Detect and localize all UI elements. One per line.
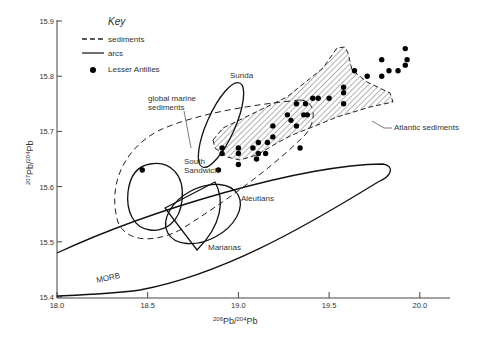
- data-point: [254, 156, 259, 161]
- pb-isotope-chart: 15.415.515.615.715.815.9 18.018.519.019.…: [0, 0, 484, 342]
- y-axis-title: 207Pb/204Pb: [25, 140, 35, 185]
- svg-text:19.5: 19.5: [322, 301, 337, 310]
- data-point: [341, 101, 346, 106]
- circle-marker-icon: [90, 67, 96, 73]
- data-point: [219, 145, 224, 150]
- y-axis-ticks: 15.415.515.615.715.815.9: [39, 17, 62, 302]
- data-point: [250, 145, 255, 150]
- label-marianas: Marianas: [208, 243, 241, 252]
- data-point: [310, 96, 315, 101]
- data-point: [294, 123, 299, 128]
- data-point: [379, 57, 384, 62]
- svg-text:15.7: 15.7: [39, 127, 54, 136]
- data-point: [263, 151, 268, 156]
- data-point: [305, 112, 310, 117]
- data-point: [270, 134, 275, 139]
- label-gms-1: global marine: [148, 94, 197, 103]
- svg-text:15.6: 15.6: [39, 183, 54, 192]
- data-point: [236, 151, 241, 156]
- data-point: [326, 96, 331, 101]
- data-point: [140, 167, 145, 172]
- data-point: [303, 101, 308, 106]
- data-point: [285, 112, 290, 117]
- data-point: [379, 74, 384, 79]
- svg-text:19.0: 19.0: [231, 301, 246, 310]
- svg-text:15.5: 15.5: [39, 238, 54, 247]
- data-point: [256, 151, 261, 156]
- svg-text:20.0: 20.0: [412, 301, 427, 310]
- label-sunda: Sunda: [230, 71, 254, 80]
- data-point: [404, 57, 409, 62]
- data-point: [297, 145, 302, 150]
- label-morb: MORB: [96, 271, 121, 285]
- data-point: [288, 118, 293, 123]
- legend: Key sediments arcs Lesser Antilles: [82, 16, 160, 74]
- data-point: [219, 151, 224, 156]
- data-point: [352, 68, 357, 73]
- data-point: [236, 162, 241, 167]
- axes: [57, 20, 450, 298]
- data-point: [294, 101, 299, 106]
- svg-text:15.9: 15.9: [39, 17, 54, 26]
- legend-sediments: sediments: [108, 35, 144, 44]
- label-atlantic: Atlantic sediments: [394, 123, 459, 132]
- data-point: [386, 68, 391, 73]
- label-aleutians: Aleutians: [241, 194, 274, 203]
- svg-text:15.8: 15.8: [39, 72, 54, 81]
- data-point: [341, 85, 346, 90]
- x-axis-title: 206Pb/204Pb: [213, 316, 258, 326]
- data-point: [341, 90, 346, 95]
- label-gms-2: sediments: [148, 103, 184, 112]
- legend-title: Key: [108, 16, 126, 27]
- data-point: [270, 123, 275, 128]
- data-point: [403, 46, 408, 51]
- data-point: [236, 145, 241, 150]
- label-ss-1: South: [184, 157, 205, 166]
- svg-text:18.5: 18.5: [140, 301, 155, 310]
- svg-text:18.0: 18.0: [50, 301, 65, 310]
- data-point: [316, 96, 321, 101]
- data-point: [265, 140, 270, 145]
- data-point: [395, 68, 400, 73]
- data-point: [256, 140, 261, 145]
- x-axis-ticks: 18.018.519.019.520.0: [50, 292, 427, 310]
- legend-arcs: arcs: [108, 49, 123, 58]
- data-point: [364, 74, 369, 79]
- label-ss-2: Sandwich: [184, 166, 219, 175]
- data-point: [403, 62, 408, 67]
- legend-lesser-antilles: Lesser Antilles: [108, 65, 160, 74]
